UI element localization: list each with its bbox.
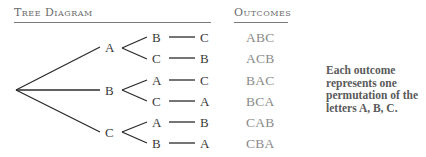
explanation-note: Each outcome represents one permutation … (326, 64, 426, 114)
outcome-item: CBA (246, 136, 275, 152)
node-l3: C (200, 30, 209, 45)
node-l3: B (200, 115, 209, 130)
node-l3: A (200, 136, 210, 151)
node-l1-b: B (105, 83, 114, 98)
outcome-item: ABC (246, 30, 275, 46)
node-l1-a: A (105, 40, 115, 55)
node-l2: B (152, 136, 161, 151)
node-l2: A (152, 73, 162, 88)
node-l1-c: C (105, 125, 114, 140)
node-l3: C (200, 73, 209, 88)
node-l2: C (152, 51, 161, 66)
outcome-item: BAC (246, 73, 275, 89)
outcome-item: ACB (246, 51, 275, 67)
node-l2: C (152, 94, 161, 109)
node-l2: B (152, 30, 161, 45)
outcome-item: BCA (246, 94, 275, 110)
node-l2: A (152, 115, 162, 130)
node-l3: B (200, 51, 209, 66)
outcome-item: CAB (246, 115, 275, 131)
node-l3: A (200, 94, 210, 109)
